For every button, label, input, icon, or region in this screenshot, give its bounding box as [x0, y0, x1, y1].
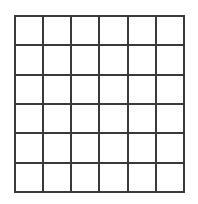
grid-cell[interactable] — [157, 105, 185, 134]
grid-cell[interactable] — [100, 76, 128, 105]
grid-cell[interactable] — [157, 164, 185, 193]
grid-cell[interactable] — [157, 76, 185, 105]
grid-cell[interactable] — [72, 76, 100, 105]
grid-cell[interactable] — [100, 134, 128, 163]
grid-cell[interactable] — [16, 46, 44, 75]
grid-cell[interactable] — [100, 46, 128, 75]
grid-cell[interactable] — [100, 164, 128, 193]
grid-cell[interactable] — [72, 105, 100, 134]
grid-cell[interactable] — [157, 17, 185, 46]
grid-cell[interactable] — [129, 17, 157, 46]
grid-cell[interactable] — [72, 17, 100, 46]
grid-cell[interactable] — [129, 105, 157, 134]
grid-cell[interactable] — [16, 76, 44, 105]
grid-cell[interactable] — [100, 105, 128, 134]
grid-cell[interactable] — [129, 134, 157, 163]
grid-cell[interactable] — [16, 164, 44, 193]
grid-cell[interactable] — [129, 164, 157, 193]
grid-cell[interactable] — [44, 46, 72, 75]
grid-cell[interactable] — [129, 46, 157, 75]
grid-cell[interactable] — [157, 46, 185, 75]
grid-cell[interactable] — [44, 105, 72, 134]
grid-cell[interactable] — [44, 17, 72, 46]
grid-cell[interactable] — [16, 134, 44, 163]
grid-cell[interactable] — [16, 17, 44, 46]
diagram-canvas — [0, 0, 198, 204]
grid-cell[interactable] — [72, 134, 100, 163]
grid-cell[interactable] — [72, 164, 100, 193]
grid-cell[interactable] — [44, 134, 72, 163]
grid-cell[interactable] — [100, 17, 128, 46]
grid-cell[interactable] — [16, 105, 44, 134]
grid-cell[interactable] — [44, 164, 72, 193]
grid-cell[interactable] — [72, 46, 100, 75]
grid-diagram[interactable] — [14, 15, 185, 193]
grid-cell[interactable] — [44, 76, 72, 105]
grid-cell[interactable] — [157, 134, 185, 163]
grid-cell[interactable] — [129, 76, 157, 105]
